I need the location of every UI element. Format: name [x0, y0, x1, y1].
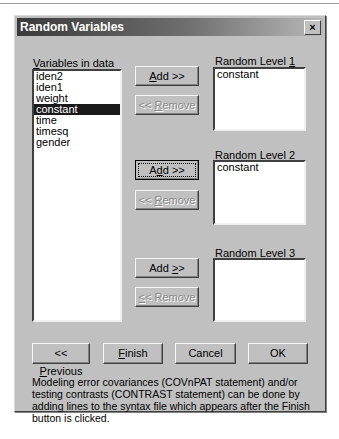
random-level-3-list[interactable] — [213, 258, 306, 322]
ok-button[interactable]: OK — [248, 343, 308, 364]
remove-level3-button[interactable]: << Remove — [135, 287, 199, 307]
finish-button[interactable]: Finish — [103, 343, 163, 364]
random-level-2-list[interactable]: constant — [213, 160, 306, 225]
add-level2-button[interactable]: Add >> — [135, 160, 199, 180]
dialog-title: Random Variables — [20, 20, 124, 34]
list-item[interactable]: gender — [34, 137, 120, 148]
list-item[interactable]: constant — [215, 162, 304, 173]
close-button[interactable]: × — [304, 20, 321, 35]
close-icon: × — [309, 21, 315, 33]
add-level3-button[interactable]: Add >> — [135, 258, 199, 278]
variables-list[interactable]: iden2 iden1 weight constant time timesq … — [32, 69, 122, 322]
cancel-button[interactable]: Cancel — [175, 343, 236, 364]
add-level1-button[interactable]: Add >> — [135, 66, 199, 86]
remove-level1-button[interactable]: << Remove — [135, 95, 199, 115]
random-level-1-label: Random Level 1 — [215, 55, 295, 67]
help-note: Modeling error covariances (COVnPAT stat… — [32, 376, 322, 424]
random-level-1-list[interactable]: constant — [213, 67, 306, 131]
variables-label: Variables in data — [33, 57, 114, 69]
remove-level2-button[interactable]: << Remove — [135, 190, 199, 210]
title-bar[interactable]: Random Variables × — [17, 18, 323, 36]
list-item[interactable]: constant — [215, 69, 304, 80]
previous-button[interactable]: << Previous — [32, 343, 90, 364]
divider — [0, 3, 339, 4]
